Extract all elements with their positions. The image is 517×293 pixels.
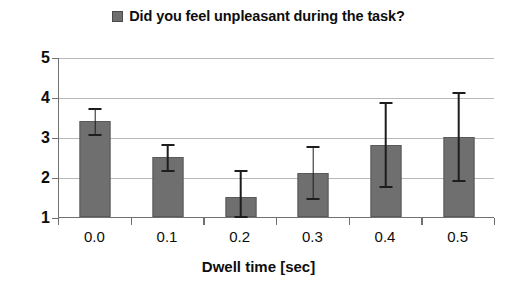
- error-bar-cap-upper: [89, 108, 102, 110]
- x-tick-mark: [349, 218, 350, 225]
- x-tick-label: 0.0: [59, 228, 129, 245]
- x-tick-mark: [203, 218, 204, 225]
- error-bar-cap-lower: [89, 134, 102, 136]
- y-tick-label: 3: [4, 129, 50, 147]
- error-bar: [307, 146, 320, 200]
- error-bar: [161, 144, 174, 172]
- error-bar-cap-lower: [307, 198, 320, 200]
- x-tick-label: 0.3: [277, 228, 347, 245]
- error-bar-cap-upper: [161, 144, 174, 146]
- y-tick-label: 2: [4, 169, 50, 187]
- error-bar: [452, 92, 465, 182]
- error-bar-stem: [313, 146, 315, 200]
- legend-swatch-icon: [112, 11, 123, 22]
- error-bar-cap-lower: [234, 216, 247, 218]
- x-axis-title: Dwell time [sec]: [0, 258, 517, 275]
- x-tick-mark: [421, 218, 422, 225]
- bar-group[interactable]: [277, 58, 350, 217]
- error-bar-cap-lower: [161, 170, 174, 172]
- x-tick-mark: [131, 218, 132, 225]
- y-tick-label: 4: [4, 89, 50, 107]
- y-tick-label: 5: [4, 49, 50, 67]
- error-bar-cap-lower: [379, 186, 392, 188]
- error-bar-stem: [95, 108, 97, 136]
- bar-group[interactable]: [422, 58, 495, 217]
- x-tick-label: 0.4: [350, 228, 420, 245]
- bar-group[interactable]: [204, 58, 277, 217]
- plot-area: [58, 58, 494, 218]
- x-tick-mark: [58, 218, 59, 225]
- error-bar: [234, 170, 247, 218]
- error-bar-cap-upper: [234, 170, 247, 172]
- bar-chart: Did you feel unpleasant during the task?…: [0, 0, 517, 293]
- error-bar-cap-lower: [452, 180, 465, 182]
- x-tick-label: 0.1: [132, 228, 202, 245]
- error-bar-cap-upper: [379, 102, 392, 104]
- bar-group[interactable]: [350, 58, 423, 217]
- error-bar: [89, 108, 102, 136]
- error-bar-stem: [240, 170, 242, 218]
- legend-label: Did you feel unpleasant during the task?: [129, 8, 405, 24]
- error-bar-cap-upper: [452, 92, 465, 94]
- error-bar-stem: [458, 92, 460, 182]
- chart-legend: Did you feel unpleasant during the task?: [0, 8, 517, 24]
- error-bar: [379, 102, 392, 188]
- y-tick-label: 1: [4, 209, 50, 227]
- bar-group[interactable]: [132, 58, 205, 217]
- bar-group[interactable]: [59, 58, 132, 217]
- x-tick-label: 0.2: [205, 228, 275, 245]
- x-tick-mark: [276, 218, 277, 225]
- x-tick-mark: [494, 218, 495, 225]
- error-bar-stem: [385, 102, 387, 188]
- y-axis: 12345: [0, 0, 50, 293]
- error-bar-cap-upper: [307, 146, 320, 148]
- x-tick-label: 0.5: [423, 228, 493, 245]
- error-bar-stem: [167, 144, 169, 172]
